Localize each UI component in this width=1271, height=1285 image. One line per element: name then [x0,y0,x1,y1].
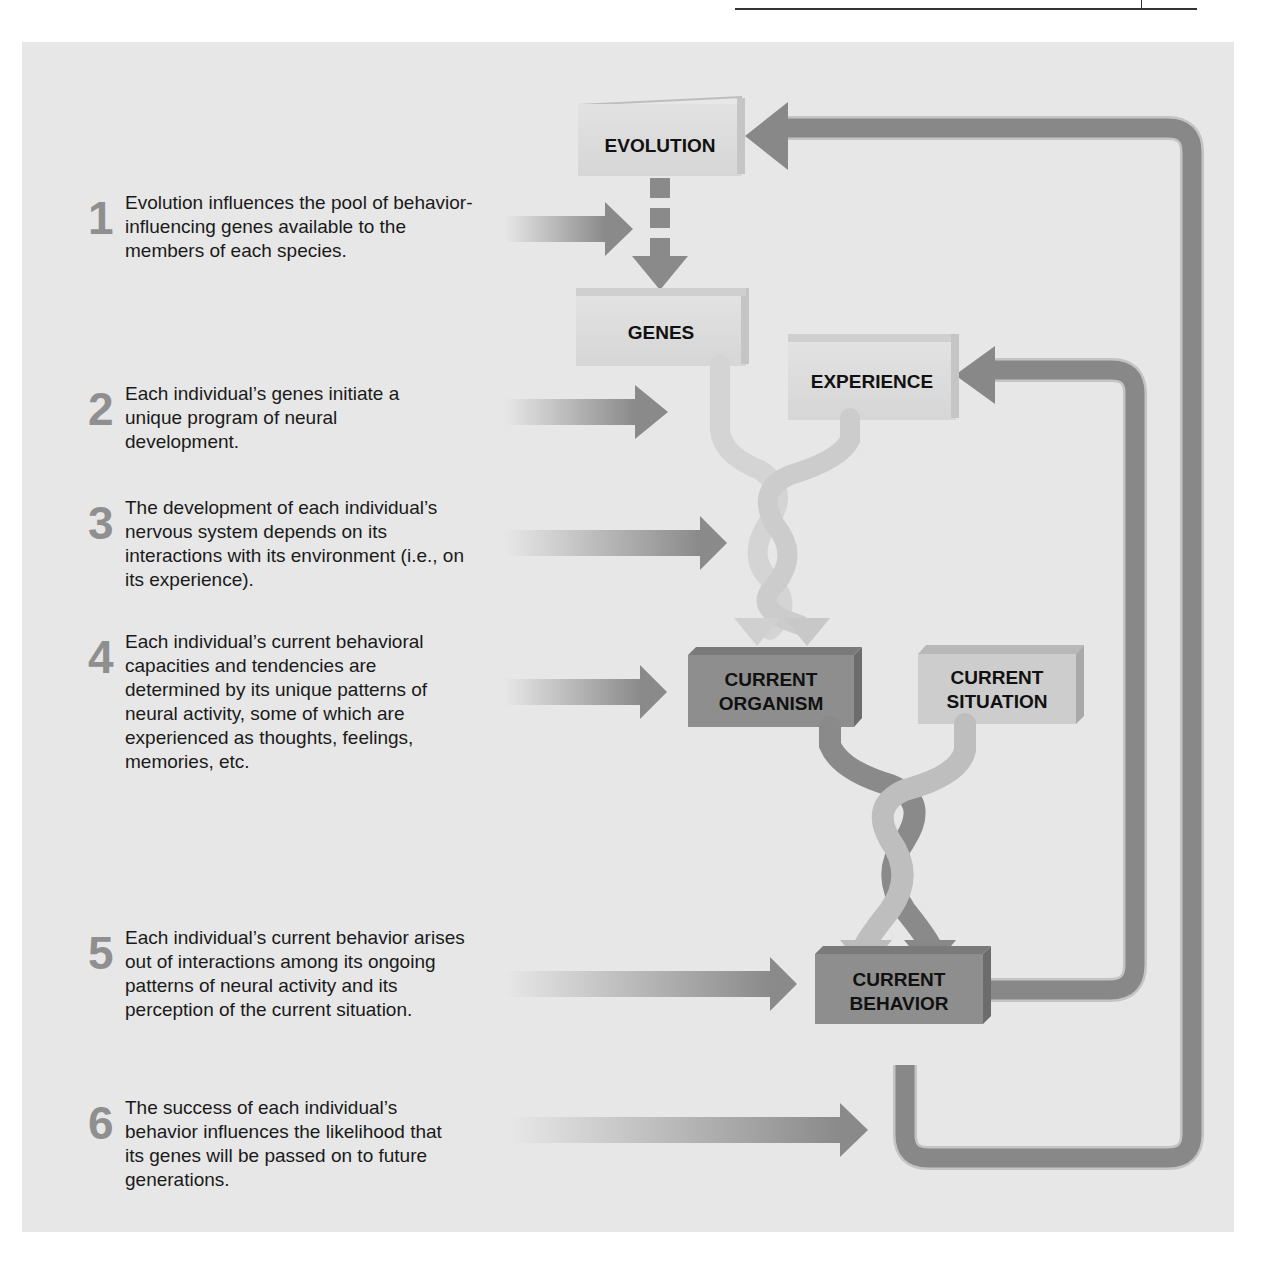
step-5-arrow [505,957,797,1011]
experience-label: EXPERIENCE [788,370,956,394]
current-behavior-label: CURRENT BEHAVIOR [815,968,983,1016]
step-2-number: 2 [88,386,114,432]
current-situation-label: CURRENT SITUATION [918,666,1076,714]
current-situation-label-line2: SITUATION [918,690,1076,714]
step-2: 2 Each individual’s genes initiate a uni… [88,382,488,454]
step-5: 5 Each individual’s current behavior ari… [88,926,488,1022]
step-4-arrow [505,665,667,719]
step-3: 3 The development of each individual’s n… [88,496,488,592]
step-6: 6 The success of each individual’s behav… [88,1096,488,1192]
current-behavior-label-line1: CURRENT [815,968,983,992]
step-2-arrow [505,385,668,439]
step-3-text: The development of each individual’s ner… [125,496,485,592]
current-organism-label-line1: CURRENT [688,668,854,692]
current-organism-label-line2: ORGANISM [688,692,854,716]
current-situation-label-line1: CURRENT [918,666,1076,690]
step-3-arrow [505,516,727,570]
step-4-text: Each individual’s current behavioral cap… [125,630,470,774]
step-1-text: Evolution influences the pool of behavio… [125,191,475,263]
step-2-text: Each individual’s genes initiate a uniqu… [125,382,445,454]
step-4: 4 Each individual’s current behavioral c… [88,630,488,774]
organism-situation-braid [830,724,965,945]
genes-label: GENES [576,321,746,345]
step-5-text: Each individual’s current behavior arise… [125,926,465,1022]
arrowhead-into-genes [632,256,688,290]
step-6-text: The success of each individual’s behavio… [125,1096,455,1192]
step-3-number: 3 [88,500,114,546]
step-4-number: 4 [88,634,114,680]
current-organism-label: CURRENT ORGANISM [688,668,854,716]
step-6-arrow [510,1103,868,1157]
step-1: 1 Evolution influences the pool of behav… [88,191,488,263]
evolution-label: EVOLUTION [578,134,742,158]
arrowhead-into-evolution [745,102,788,170]
step-5-number: 5 [88,930,114,976]
step-1-number: 1 [88,195,114,241]
step-1-arrow [505,202,633,256]
arrowhead-into-experience [955,346,995,404]
current-behavior-label-line2: BEHAVIOR [815,992,983,1016]
step-6-number: 6 [88,1100,114,1146]
